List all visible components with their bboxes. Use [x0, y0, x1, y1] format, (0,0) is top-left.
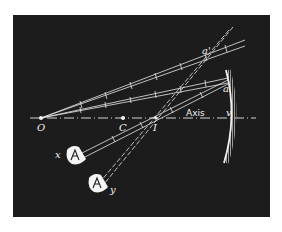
point-c	[121, 116, 125, 120]
label-y: y	[109, 184, 116, 195]
label-axis: Axis	[186, 108, 205, 118]
point-o	[39, 116, 43, 120]
label-i: I	[152, 122, 158, 133]
eye-y-icon	[89, 174, 108, 192]
label-a: a	[223, 83, 229, 94]
ray-bundle-upper	[41, 40, 245, 118]
label-x: x	[55, 149, 61, 160]
label-o: O	[37, 122, 45, 133]
eye-x-icon	[67, 146, 86, 164]
label-c: C	[119, 122, 127, 133]
point-i	[155, 117, 158, 120]
label-v: v	[226, 107, 232, 118]
label-a-prime: a'	[202, 45, 211, 56]
reflected-rays-y	[100, 27, 233, 184]
optics-diagram: O C I Axis v a a' x y	[0, 0, 282, 232]
reflected-rays-x	[80, 80, 228, 158]
